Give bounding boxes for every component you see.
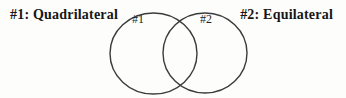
venn-diagram: #1: Quadrilateral #2: Equilateral #1 #2: [0, 0, 346, 98]
venn-circles: [0, 0, 346, 98]
set1-circle: [110, 13, 197, 94]
set2-circle-label: #2: [200, 12, 212, 27]
set1-circle-label: #1: [132, 12, 144, 27]
